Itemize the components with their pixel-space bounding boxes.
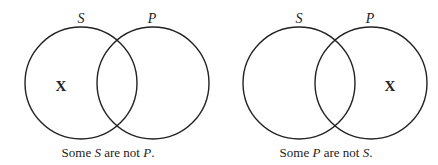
label-p-2: P [366,12,375,26]
x-mark-1: X [56,79,67,94]
label-p-1: P [148,12,157,26]
label-s-1: S [78,12,85,26]
caption-2: Some P are not S. [280,146,373,159]
venn-diagram-1 [25,27,209,139]
label-s-2: S [296,12,303,26]
circle-p-1 [97,27,209,139]
venn-diagram-2 [243,27,427,139]
circle-s-1 [25,27,137,139]
x-mark-2: X [385,79,396,94]
circle-p-2 [315,27,427,139]
circle-s-2 [243,27,355,139]
caption-1: Some S are not P. [62,146,155,159]
